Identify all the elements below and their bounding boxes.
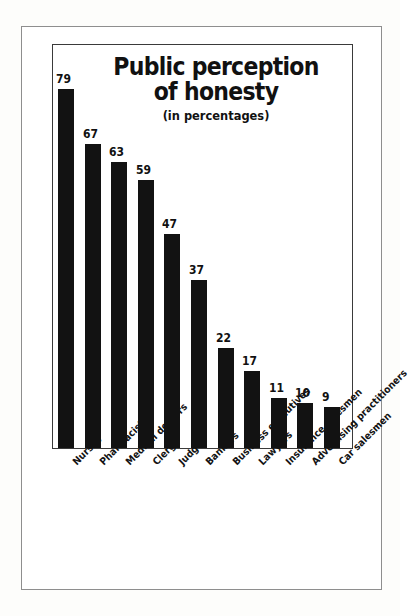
bar — [111, 162, 127, 448]
bar — [324, 407, 340, 448]
bar-value-label: 47 — [162, 218, 177, 230]
bar — [138, 180, 154, 448]
bar-value-label: 17 — [242, 355, 257, 367]
bar-value-label: 79 — [56, 73, 71, 85]
bar-value-label: 37 — [189, 264, 204, 276]
bar — [85, 144, 101, 448]
bar-value-label: 63 — [109, 146, 124, 158]
bar-value-label: 67 — [83, 128, 98, 140]
bar — [218, 348, 234, 448]
bar — [191, 280, 207, 448]
bar — [271, 398, 287, 448]
bar — [164, 234, 180, 448]
bar-value-label: 22 — [216, 332, 231, 344]
bar — [244, 371, 260, 448]
bar-value-label: 59 — [136, 164, 151, 176]
bar — [297, 403, 313, 448]
bar-value-label: 11 — [269, 382, 284, 394]
bar — [58, 89, 74, 448]
bar-value-label: 10 — [295, 387, 310, 399]
category-label: Car salesmen — [337, 411, 393, 467]
bar-value-label: 9 — [322, 391, 330, 403]
